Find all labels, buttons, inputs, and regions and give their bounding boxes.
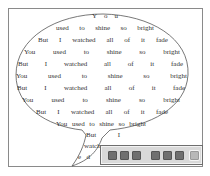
word: used <box>51 96 64 104</box>
text-line: usedtoshinesobright <box>56 24 154 32</box>
word: fade <box>171 60 183 68</box>
tool-2-button[interactable] <box>120 151 129 160</box>
word: to <box>82 72 87 80</box>
word: so <box>119 120 125 128</box>
text-line: ButIwatchedallofitfade <box>38 36 168 44</box>
word: But <box>17 84 27 92</box>
word: it <box>152 84 156 92</box>
word: of <box>129 84 135 92</box>
toolbar <box>100 145 203 165</box>
word: used <box>48 72 61 80</box>
word: to <box>82 96 87 104</box>
word: all <box>106 36 113 44</box>
word: shine <box>108 72 123 80</box>
word: it <box>141 108 145 116</box>
word: shine <box>106 96 121 104</box>
word: so <box>143 72 149 80</box>
word: I <box>118 131 120 139</box>
word: used <box>56 24 69 32</box>
word: all <box>105 84 112 92</box>
word: But <box>18 60 28 68</box>
text-line: Youusedtoshinesobright <box>56 120 146 128</box>
word: watched <box>71 108 94 116</box>
word: I <box>45 60 47 68</box>
word: to <box>89 120 94 128</box>
word: u <box>115 12 119 20</box>
tool-5-button[interactable] <box>163 151 172 160</box>
word: watch <box>84 142 101 150</box>
word: fade <box>156 108 168 116</box>
word: shine <box>107 48 122 56</box>
text-line: You <box>92 12 118 20</box>
word: I <box>44 84 46 92</box>
word: it <box>141 36 145 44</box>
text-line: Youusedtoshinesobright <box>22 96 180 104</box>
tool-7-button[interactable] <box>190 151 199 160</box>
word: bright <box>163 96 180 104</box>
word: of <box>124 36 130 44</box>
word: shine <box>99 120 114 128</box>
word: so <box>121 24 127 32</box>
word: all <box>106 108 113 116</box>
word: used <box>53 48 66 56</box>
text-line: ButIwatchedallofitfade <box>36 108 168 116</box>
word: I <box>57 108 59 116</box>
word: of <box>124 108 130 116</box>
word: But <box>38 36 48 44</box>
word: to <box>84 48 89 56</box>
word: all <box>104 60 111 68</box>
word: d <box>87 153 91 161</box>
word: fade <box>173 84 185 92</box>
word: so <box>139 96 145 104</box>
word: You <box>24 48 35 56</box>
tool-1-button[interactable] <box>108 151 117 160</box>
word: But <box>36 108 46 116</box>
word: fade <box>156 36 168 44</box>
word: it <box>150 60 154 68</box>
word: watched <box>64 84 87 92</box>
word: I <box>59 36 61 44</box>
text-line: ButI <box>86 131 120 139</box>
word: You <box>22 96 33 104</box>
word: watched <box>72 36 95 44</box>
text-line: ButIwatchedallofitfade <box>17 84 185 92</box>
word: watched <box>64 60 87 68</box>
text-line: Youusedtoshinesobright <box>16 72 187 80</box>
word: You <box>56 120 67 128</box>
word: bright <box>170 72 187 80</box>
text-line: ed <box>78 153 90 161</box>
word: so <box>139 48 145 56</box>
tool-6-button[interactable] <box>175 151 184 160</box>
text-line: ButIwatchedallofitfade <box>18 60 183 68</box>
word: used <box>72 120 85 128</box>
word: shine <box>95 24 110 32</box>
word: of <box>128 60 134 68</box>
word: to <box>79 24 84 32</box>
word: But <box>86 131 96 139</box>
word: o <box>104 12 108 20</box>
word: bright <box>137 24 154 32</box>
tool-3-button[interactable] <box>132 151 141 160</box>
word: e <box>78 153 81 161</box>
text-line: Youusedtoshinesobright <box>24 48 180 56</box>
word: bright <box>129 120 146 128</box>
tool-4-button[interactable] <box>151 151 160 160</box>
word: You <box>16 72 27 80</box>
word: bright <box>163 48 180 56</box>
word: Y <box>92 12 97 20</box>
